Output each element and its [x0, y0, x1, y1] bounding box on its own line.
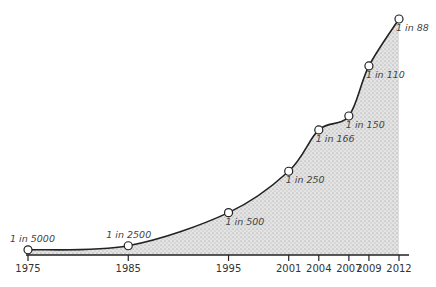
data-point-label: 1 in 88	[396, 22, 429, 33]
x-axis-ticks: 19751985199520012004200720092012	[15, 255, 411, 274]
x-tick-label: 1995	[216, 263, 241, 274]
data-point-label: 1 in 5000	[10, 233, 55, 244]
x-tick-label: 2012	[386, 263, 411, 274]
x-tick-label: 1975	[15, 263, 40, 274]
x-tick-label: 1985	[116, 263, 141, 274]
data-point-label: 1 in 250	[286, 174, 325, 185]
x-tick-label: 2001	[276, 263, 301, 274]
x-tick-label: 2009	[356, 263, 381, 274]
data-point-marker	[124, 242, 132, 250]
data-point-label: 1 in 2500	[106, 229, 151, 240]
x-tick-label: 2004	[306, 263, 331, 274]
data-point-label: 1 in 110	[366, 69, 405, 80]
data-point-label: 1 in 500	[226, 216, 265, 227]
data-point-label: 1 in 166	[316, 133, 355, 144]
data-point-marker	[24, 246, 32, 254]
data-point-label: 1 in 150	[346, 119, 385, 130]
prevalence-chart: 19751985199520012004200720092012 1 in 50…	[0, 0, 436, 287]
